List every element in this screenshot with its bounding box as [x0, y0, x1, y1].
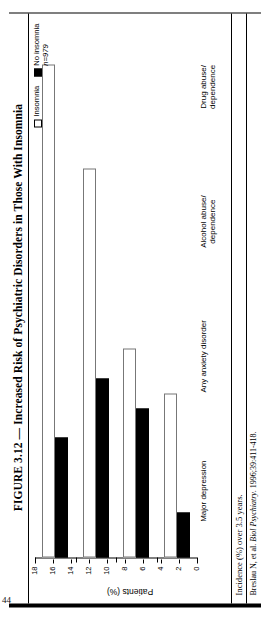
- y-axis-label-text: Patients (%): [107, 587, 153, 597]
- legend-label: No insomnian=979: [33, 23, 50, 65]
- y-tick-label: 4: [157, 563, 165, 570]
- y-tick-mark: [125, 559, 126, 563]
- bar-no-insomnia: [136, 408, 149, 557]
- category-labels: Major depressionAny anxiety disorderAlco…: [197, 19, 231, 558]
- y-tick-mark: [71, 559, 72, 563]
- category-axis-tick: [116, 557, 117, 562]
- category-label: Drug abuse/dependence: [200, 64, 218, 108]
- source-prefix: Breslau N, et al.: [249, 541, 258, 595]
- source-journal: Biol Psychiatry: [249, 492, 258, 542]
- bar-group: [77, 19, 115, 557]
- y-tick-label: 10: [103, 563, 111, 574]
- legend-sample-size: n=979: [42, 23, 51, 65]
- legend-item: Insomnia: [33, 85, 42, 127]
- category-label-line: dependence: [209, 64, 218, 108]
- source-suffix: . 1996;39:411-418.: [249, 431, 258, 492]
- category-label: Alcohol abuse/dependence: [200, 195, 218, 247]
- legend-swatch-open: [34, 119, 42, 127]
- figure-frame: FIGURE 3.12 — Increased Risk of Psychiat…: [9, 12, 261, 607]
- y-axis-label: Patients (%): [29, 585, 231, 599]
- figure-source: Breslau N, et al. Biol Psychiatry. 1996;…: [246, 13, 261, 603]
- bar-no-insomnia: [96, 378, 109, 557]
- bar-no-insomnia: [177, 512, 190, 557]
- y-tick-mark: [161, 559, 162, 563]
- y-tick-label: 6: [139, 563, 147, 570]
- y-tick-label: 0: [193, 563, 201, 570]
- bar-group: [117, 19, 155, 557]
- bar-group: [158, 19, 196, 557]
- page-number: 44: [2, 595, 11, 605]
- figure-title: FIGURE 3.12 — Increased Risk of Psychiat…: [9, 13, 29, 603]
- category-label: Major depression: [200, 460, 209, 521]
- category-label-line: Any anxiety disorder: [200, 320, 209, 392]
- bar-groups: [35, 19, 197, 557]
- rotated-figure-inner: FIGURE 3.12 — Increased Risk of Psychiat…: [9, 12, 261, 607]
- y-tick-mark: [89, 559, 90, 563]
- y-tick-mark: [107, 559, 108, 563]
- bar-insomnia: [42, 64, 55, 557]
- y-tick-label: 2: [175, 563, 183, 570]
- category-label-line: dependence: [209, 195, 218, 247]
- rotated-figure-wrapper: FIGURE 3.12 — Increased Risk of Psychiat…: [0, 0, 270, 619]
- plot-area: [35, 19, 197, 558]
- figure-body: Patients (%) 024681012141618 Major depre…: [29, 13, 231, 603]
- bar-insomnia: [164, 393, 177, 557]
- y-tick-label: 16: [49, 563, 57, 574]
- y-axis-ticks: 024681012141618: [35, 559, 197, 585]
- category-axis-tick: [76, 557, 77, 562]
- y-tick-label: 12: [85, 563, 93, 574]
- bar-chart: Patients (%) 024681012141618 Major depre…: [29, 13, 231, 603]
- bar-insomnia: [83, 168, 96, 557]
- category-label-line: Major depression: [200, 460, 209, 521]
- chart-legend: InsomniaNo insomnian=979: [33, 23, 50, 127]
- category-axis-tick: [157, 557, 158, 562]
- y-tick-mark: [143, 559, 144, 563]
- bar-no-insomnia: [55, 437, 68, 557]
- legend-label: Insomnia: [33, 85, 42, 116]
- category-axis-tick: [35, 557, 36, 562]
- bar-insomnia: [123, 348, 136, 557]
- y-tick-mark: [53, 559, 54, 563]
- category-label: Any anxiety disorder: [200, 320, 209, 392]
- legend-item: No insomnian=979: [33, 23, 50, 76]
- y-tick-mark: [179, 559, 180, 563]
- legend-swatch-solid: [34, 68, 42, 76]
- y-tick-label: 18: [31, 563, 39, 574]
- figure-note: Incidence (%) over 3.5 years.: [231, 13, 246, 603]
- y-tick-label: 14: [67, 563, 75, 574]
- y-tick-label: 8: [121, 563, 129, 570]
